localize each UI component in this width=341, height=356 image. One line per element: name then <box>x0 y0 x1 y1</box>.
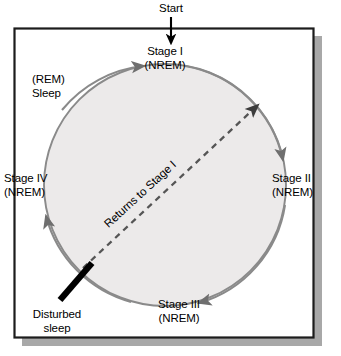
start-label: Start <box>126 2 216 16</box>
disturbed-sleep-label: Disturbed sleep <box>16 308 98 335</box>
rem-sleep-label: (REM) Sleep <box>32 73 94 100</box>
stage-4-label: Stage IV (NREM) <box>4 172 80 199</box>
stage-3-label: Stage III (NREM) <box>134 298 224 325</box>
sleep-cycle-figure: Start Stage I (NREM) Stage II (NREM) Sta… <box>0 0 341 356</box>
stage-2-label: Stage II (NREM) <box>272 172 338 199</box>
stage-1-label: Stage I (NREM) <box>120 45 210 72</box>
